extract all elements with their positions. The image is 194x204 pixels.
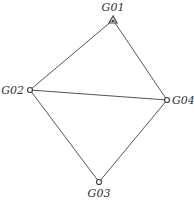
edge-g01-g04 xyxy=(113,20,167,100)
node-g03-circle-icon xyxy=(97,180,102,185)
edge-g04-g03 xyxy=(99,100,167,182)
node-label-g04: G04 xyxy=(172,94,194,107)
node-label-g01: G01 xyxy=(102,1,125,14)
edge-g02-g03 xyxy=(30,90,99,182)
edge-g02-g04 xyxy=(30,90,167,100)
node-g02-circle-icon xyxy=(28,88,33,93)
node-g04-circle-icon xyxy=(165,98,170,103)
edge-g01-g02 xyxy=(30,20,113,90)
node-label-g02: G02 xyxy=(1,84,24,97)
network-graph: G01G02G03G04 xyxy=(0,0,194,204)
node-label-g03: G03 xyxy=(88,187,111,200)
